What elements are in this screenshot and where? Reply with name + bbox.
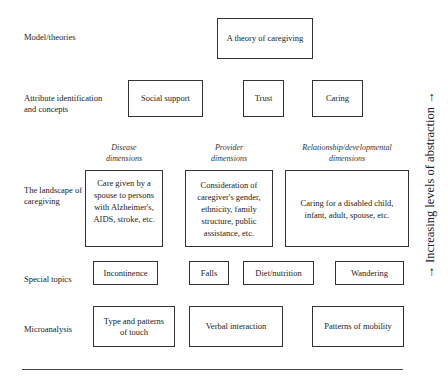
box-relationship-dimensions: Caring for a disabled child, infant, adu… — [285, 170, 409, 247]
box-line: Type and patterns — [104, 316, 164, 327]
box-text: Wandering — [351, 268, 388, 279]
header-line: dimensions — [185, 153, 273, 164]
box-text: Diet/nutrition — [255, 268, 301, 279]
box-text: Social support — [141, 93, 190, 104]
box-line: structure, public — [197, 215, 261, 227]
row-label-line: caregiving — [24, 196, 82, 207]
box-line: Consideration of — [197, 179, 261, 191]
header-line: Relationship/developmental — [285, 142, 409, 153]
box-wandering: Wandering — [335, 261, 404, 285]
box-type-patterns-touch: Type and patterns of touch — [93, 306, 175, 347]
box-patterns-of-mobility: Patterns of mobility — [312, 306, 404, 347]
header-line: Disease — [85, 142, 163, 153]
header-disease-dimensions: Disease dimensions — [85, 142, 163, 164]
box-line: caregiver's gender, — [197, 191, 261, 203]
box-diet-nutrition: Diet/nutrition — [243, 261, 314, 285]
box-line: assistance, etc. — [197, 227, 261, 239]
box-text: A theory of caregiving — [227, 33, 304, 44]
box-line: AIDS, stroke, etc. — [93, 213, 154, 225]
row-label-landscape: The landscape of caregiving — [24, 185, 82, 207]
abstraction-axis-label: → Increasing levels of abstraction → — [423, 91, 438, 278]
box-text: Incontinence — [104, 268, 148, 279]
box-text: Patterns of mobility — [324, 321, 392, 332]
box-line: with Alzheimer's, — [93, 201, 154, 213]
box-line: infant, adult, spouse, etc. — [301, 209, 394, 221]
box-text: Caring — [326, 93, 349, 104]
box-text: Falls — [201, 268, 218, 279]
box-theory-of-caregiving: A theory of caregiving — [217, 18, 313, 59]
row-label-line: The landscape of — [24, 185, 82, 196]
box-disease-dimensions: Care given by a spouse to persons with A… — [85, 170, 163, 247]
box-social-support: Social support — [128, 80, 203, 117]
row-label-line: and concepts — [24, 104, 102, 115]
box-verbal-interaction: Verbal interaction — [189, 306, 283, 347]
header-provider-dimensions: Provider dimensions — [185, 142, 273, 164]
box-incontinence: Incontinence — [93, 261, 158, 285]
box-line: Care given by a — [93, 177, 154, 189]
header-line: Provider — [185, 142, 273, 153]
box-text: Trust — [255, 93, 273, 104]
box-line: Caring for a disabled child, — [301, 197, 394, 209]
header-line: dimensions — [85, 153, 163, 164]
box-text: Verbal interaction — [206, 321, 267, 332]
row-label-special-topics: Special topics — [24, 274, 71, 285]
box-provider-dimensions: Consideration of caregiver's gender, eth… — [185, 170, 273, 247]
bottom-rule — [22, 369, 403, 370]
box-caring: Caring — [312, 80, 363, 117]
header-relationship-dimensions: Relationship/developmental dimensions — [285, 142, 409, 164]
row-label-line: Attribute identification — [24, 93, 102, 104]
header-line: dimensions — [285, 153, 409, 164]
row-label-model-theories: Model/theories — [24, 32, 75, 43]
row-label-microanalysis: Microanalysis — [24, 324, 72, 335]
box-trust: Trust — [243, 80, 284, 117]
box-line: of touch — [104, 327, 164, 338]
box-line: ethnicity, family — [197, 203, 261, 215]
row-label-attribute-identification: Attribute identification and concepts — [24, 93, 102, 115]
box-falls: Falls — [189, 261, 229, 285]
box-line: spouse to persons — [93, 189, 154, 201]
